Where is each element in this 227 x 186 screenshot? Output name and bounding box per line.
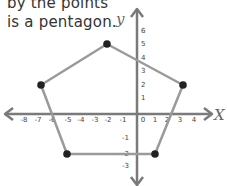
y-tick-labels: 6 5 4 3 2 1 -1 -2 -3 — [122, 27, 146, 170]
x-axis-label: X — [213, 106, 226, 124]
x-tick: -2 — [105, 116, 112, 124]
vertex-point — [179, 81, 187, 89]
x-tick: -3 — [92, 116, 99, 124]
y-axis: y — [115, 9, 143, 185]
y-tick: -1 — [122, 134, 129, 142]
x-tick: 1 — [153, 116, 157, 124]
vertices — [37, 40, 187, 158]
x-tick: -5 — [65, 116, 72, 124]
vertex-point — [63, 150, 71, 158]
x-tick: -1 — [120, 116, 127, 124]
x-tick: -8 — [21, 116, 28, 124]
x-tick: 4 — [192, 116, 197, 124]
y-tick: 6 — [141, 27, 146, 35]
x-tick: -7 — [35, 116, 42, 124]
pentagon-shape — [41, 44, 183, 154]
coordinate-plane: X y -8 -7 -6 -5 -4 -3 -2 -1 0 1 2 3 4 6 … — [0, 0, 227, 186]
x-tick: 3 — [178, 116, 182, 124]
y-tick: -3 — [122, 162, 129, 170]
y-tick: 1 — [141, 94, 145, 102]
x-tick: 0 — [141, 116, 145, 124]
y-tick: 2 — [141, 81, 145, 89]
y-tick: 4 — [141, 54, 146, 62]
y-tick: 3 — [141, 67, 145, 75]
x-tick: -4 — [78, 116, 86, 124]
vertex-point — [103, 40, 111, 48]
y-tick: 5 — [141, 40, 145, 48]
vertex-point — [151, 150, 159, 158]
y-axis-label: y — [115, 10, 125, 28]
vertex-point — [37, 81, 45, 89]
